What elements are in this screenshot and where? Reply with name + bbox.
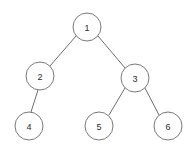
binary-tree-diagram: 1 2 3 4 5 6	[0, 0, 196, 151]
node-label-2: 2	[37, 72, 42, 82]
tree-node-4[interactable]: 4	[15, 112, 43, 140]
tree-node-2[interactable]: 2	[26, 62, 54, 90]
edge-3-to-5	[109, 88, 125, 115]
edge-1-to-3	[98, 36, 125, 68]
node-label-3: 3	[132, 74, 137, 84]
node-label-6: 6	[165, 122, 170, 132]
node-group: 1 2 3 4 5 6	[15, 13, 182, 140]
tree-node-5[interactable]: 5	[85, 112, 113, 140]
edge-3-to-6	[145, 88, 159, 115]
tree-node-3[interactable]: 3	[121, 64, 149, 92]
edge-2-to-4	[31, 90, 38, 112]
edge-1-to-2	[50, 36, 76, 66]
node-label-4: 4	[26, 122, 31, 132]
node-label-5: 5	[96, 122, 101, 132]
tree-node-6[interactable]: 6	[154, 112, 182, 140]
tree-node-1[interactable]: 1	[73, 13, 101, 41]
node-label-1: 1	[84, 23, 89, 33]
